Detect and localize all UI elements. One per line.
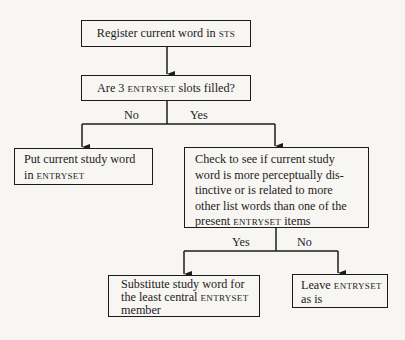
- node-check-line3: tinctive or is related to more: [195, 183, 368, 199]
- entryset-term: ENTRYSET: [37, 168, 85, 182]
- node-register: Register current word in STS: [81, 20, 251, 47]
- node-check-line1: Check to see if current study: [195, 152, 368, 168]
- node-check-line5-pre: present: [195, 214, 233, 228]
- entryset-term: ENTRYSET: [201, 290, 249, 304]
- node-check-line5-post: items: [281, 214, 310, 228]
- node-check-line2: word is more perceptually dis-: [195, 168, 368, 184]
- node-leave-line1: Leave ENTRYSET: [301, 278, 387, 292]
- node-check-line5: present ENTRYSET items: [195, 214, 368, 230]
- node-substitute-line3: member: [121, 304, 259, 317]
- node-leave-line2: as is: [301, 292, 387, 306]
- node-put-line2-pre: in: [24, 168, 37, 182]
- node-leave-line1-pre: Leave: [301, 278, 334, 292]
- node-put-line2: in ENTRYSET: [24, 168, 152, 184]
- entryset-term: ENTRYSET: [334, 278, 382, 292]
- sts-term: STS: [219, 26, 235, 40]
- node-question-text-pre: Are 3: [97, 81, 127, 95]
- node-put: Put current study word in ENTRYSET: [14, 148, 153, 185]
- node-substitute-line2-pre: the least central: [121, 290, 201, 304]
- edge-label-no: No: [124, 108, 139, 123]
- entryset-term: ENTRYSET: [127, 81, 175, 95]
- node-check-line4: other list words than one of the: [195, 199, 368, 215]
- node-register-text: Register current word in: [97, 26, 216, 40]
- node-leave: Leave ENTRYSET as is: [292, 274, 388, 308]
- node-check: Check to see if current study word is mo…: [184, 147, 369, 228]
- node-question: Are 3 ENTRYSET slots filled?: [81, 75, 251, 101]
- edge-label-no-2: No: [297, 235, 312, 250]
- edge-label-yes-2: Yes: [232, 235, 250, 250]
- edge-label-yes: Yes: [190, 108, 208, 123]
- node-substitute: Substitute study word for the least cent…: [108, 275, 260, 317]
- entryset-term: ENTRYSET: [233, 214, 281, 228]
- node-put-line1: Put current study word: [24, 152, 152, 168]
- node-question-text-post: slots filled?: [175, 81, 235, 95]
